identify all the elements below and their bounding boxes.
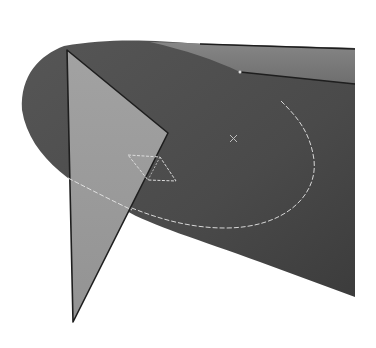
vertex-point[interactable] (239, 71, 242, 74)
cad-viewport[interactable] (0, 0, 376, 348)
cad-scene[interactable] (0, 0, 376, 348)
